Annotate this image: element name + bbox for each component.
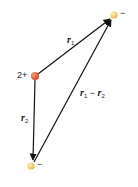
diagram-graphics: [0, 0, 138, 187]
bottom-charge-sphere: [27, 162, 34, 169]
central-charge-label: 2+: [17, 71, 27, 80]
vector-diagram: 2+ − − r1 r2 r1 − r2: [0, 0, 138, 187]
central-charge-sphere: [31, 72, 39, 80]
r1-minus-r2-label: r1 − r2: [80, 88, 105, 99]
r2-label: r2: [21, 113, 28, 124]
top-charge-label: −: [120, 9, 125, 18]
vector-r2: [33, 80, 35, 160]
vector-r1: [38, 19, 110, 74]
top-charge-sphere: [110, 11, 117, 18]
bottom-charge-label: −: [37, 160, 42, 169]
r1-label: r1: [67, 35, 74, 46]
